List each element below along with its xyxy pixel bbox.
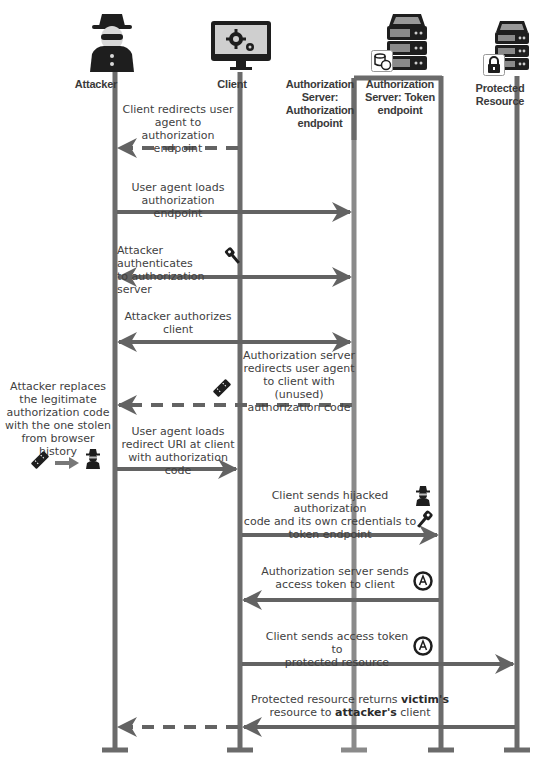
arrow-right-icon [55, 454, 79, 466]
spy-icon [414, 486, 432, 506]
actor-label-token-endpoint: Authorization Server: Token endpoint [360, 78, 440, 117]
message-5-label: Authorization server redirects user agen… [243, 349, 355, 414]
message-6-label: User agent loads redirect URI at client … [117, 425, 239, 477]
actor-label-protected-resource: Protected Resource [470, 82, 530, 108]
message-9-label: Client sends access token to protected r… [262, 630, 412, 669]
actor-label-attacker: Attacker [66, 78, 126, 91]
spy-icon [84, 449, 102, 469]
actor-label-authorization-endpoint: Authorization Server: Authorization endp… [280, 78, 360, 130]
key-icon [224, 246, 242, 266]
ticket-icon [30, 450, 50, 470]
message-1-label: Client redirects user agent to authoriza… [118, 103, 238, 155]
message-2-label: User agent loads authorization endpoint [118, 181, 238, 220]
lock-icon [483, 54, 505, 76]
message-4-label: Attacker authorizes client [118, 310, 238, 336]
monitor-gears-icon [210, 20, 272, 74]
side-note-attacker-replaces-code: Attacker replaces the legitimate authori… [2, 380, 114, 458]
sequence-diagram: Attacker Client Authorization Server: Au… [0, 0, 544, 768]
key-icon [414, 509, 434, 531]
actor-label-client: Client [202, 78, 262, 91]
message-3-label: Attacker authenticates to authorization … [117, 244, 229, 296]
access-token-icon [413, 636, 433, 656]
ticket-icon [212, 378, 232, 398]
access-token-icon [413, 571, 433, 591]
server-database-icon [371, 50, 393, 72]
spy-icon [82, 12, 142, 72]
message-7-label: Client sends hijacked authorization code… [240, 489, 420, 541]
message-10-label: Protected resource returns victim's reso… [250, 693, 450, 719]
message-8-label: Authorization server sends access token … [260, 565, 410, 591]
